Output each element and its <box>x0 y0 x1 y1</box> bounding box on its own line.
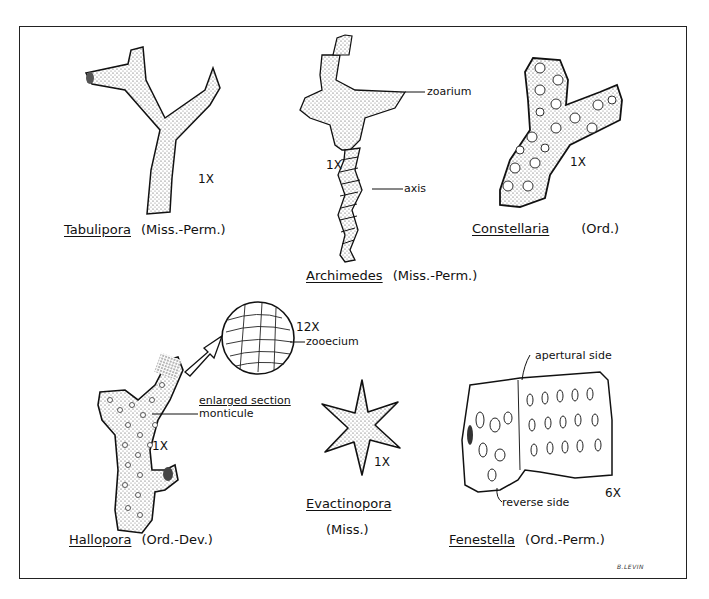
evactinopora-caption: Evactinopora <box>306 496 391 511</box>
hallopora-zooecium-label: zooecium <box>306 335 359 348</box>
constellaria-genus: Constellaria <box>472 221 549 236</box>
tabulipora-magnification: 1X <box>198 172 214 186</box>
fenestella-caption: Fenestella(Ord.-Perm.) <box>449 532 605 547</box>
archimedes-caption: Archimedes(Miss.-Perm.) <box>306 268 477 283</box>
evactinopora-genus: Evactinopora <box>306 496 391 511</box>
archimedes-range: (Miss.-Perm.) <box>393 268 478 283</box>
hallopora-monticule-label: monticule <box>199 407 254 420</box>
archimedes-genus: Archimedes <box>306 268 383 283</box>
hallopora-inset-magnification: 12X <box>296 320 320 334</box>
hallopora-magnification: 1X <box>152 439 168 453</box>
archimedes-zoarium-label: zoarium <box>427 85 472 98</box>
constellaria-drawing <box>500 58 622 207</box>
tabulipora-genus: Tabulipora <box>64 222 131 237</box>
tabulipora-range: (Miss.-Perm.) <box>141 222 226 237</box>
tabulipora-drawing <box>86 47 220 214</box>
constellaria-magnification: 1X <box>570 155 586 169</box>
constellaria-caption: Constellaria(Ord.) <box>472 221 619 236</box>
tabulipora-caption: Tabulipora(Miss.-Perm.) <box>64 222 226 237</box>
fenestella-genus: Fenestella <box>449 532 515 547</box>
evactinopora-magnification: 1X <box>374 455 390 469</box>
constellaria-range: (Ord.) <box>581 221 619 236</box>
fenestella-range: (Ord.-Perm.) <box>525 532 605 547</box>
archimedes-drawing <box>300 35 425 262</box>
fenestella-magnification: 6X <box>605 486 621 500</box>
evactinopora-range: (Miss.) <box>326 522 369 537</box>
fenestella-reverse-side-label: reverse side <box>502 496 569 509</box>
archimedes-magnification: 1X <box>326 158 342 172</box>
artist-signature: B.LEVIN <box>617 563 644 570</box>
hallopora-caption: Hallopora(Ord.-Dev.) <box>69 532 213 547</box>
fenestella-drawing <box>462 355 612 502</box>
fenestella-apertural-side-label: apertural side <box>535 349 612 362</box>
hallopora-enlarged-section-label: enlarged section <box>199 394 291 407</box>
archimedes-axis-label: axis <box>404 182 426 195</box>
hallopora-genus: Hallopora <box>69 532 131 547</box>
hallopora-range: (Ord.-Dev.) <box>141 532 212 547</box>
